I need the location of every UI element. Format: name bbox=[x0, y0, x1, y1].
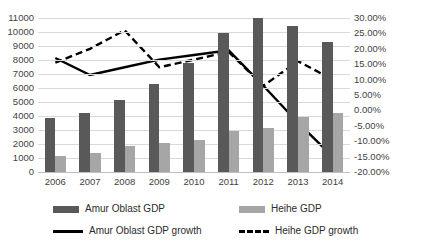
bar-heihe-gdp bbox=[298, 117, 309, 172]
bar-heihe-gdp bbox=[194, 140, 205, 172]
y-axis-left-tick: 2000 bbox=[13, 139, 34, 149]
legend-label: Heihe GDP bbox=[271, 203, 322, 215]
chart-legend: Amur Oblast GDP Heihe GDP Amur Oblast GD… bbox=[0, 196, 442, 248]
x-axis-tick: 2008 bbox=[107, 176, 142, 187]
legend-item-amur-oblast-gdp: Amur Oblast GDP bbox=[53, 203, 239, 215]
legend-item-amur-oblast-gdp-growth: Amur Oblast GDP growth bbox=[53, 225, 239, 237]
x-axis-tick: 2011 bbox=[211, 176, 246, 187]
x-axis-tick: 2009 bbox=[142, 176, 177, 187]
legend-line-solid-icon bbox=[53, 230, 83, 233]
x-axis-tick: 2007 bbox=[73, 176, 108, 187]
legend-label: Amur Oblast GDP bbox=[85, 203, 165, 215]
y-axis-right-tick: -20.00% bbox=[354, 167, 389, 177]
legend-label: Heihe GDP growth bbox=[275, 225, 358, 237]
y-axis-right-tick: 0.00% bbox=[354, 105, 381, 115]
gridline bbox=[38, 32, 350, 33]
y-axis-left-tick: 5000 bbox=[13, 97, 34, 107]
axis-baseline bbox=[38, 172, 350, 173]
y-axis-right-tick: 20.00% bbox=[354, 44, 386, 54]
bar-amur-oblast-gdp bbox=[45, 118, 56, 172]
y-axis-right: -20.00%-15.00%-10.00%-5.00%0.00%5.00%10.… bbox=[354, 18, 440, 172]
x-axis-tick: 2014 bbox=[315, 176, 350, 187]
bar-amur-oblast-gdp bbox=[253, 18, 264, 172]
bar-heihe-gdp bbox=[90, 153, 101, 172]
bar-amur-oblast-gdp bbox=[218, 33, 229, 172]
y-axis-right-tick: -5.00% bbox=[354, 121, 384, 131]
y-axis-right-tick: 10.00% bbox=[354, 75, 386, 85]
bar-heihe-gdp bbox=[159, 143, 170, 172]
y-axis-left-tick: 10000 bbox=[8, 27, 34, 37]
gridline bbox=[38, 74, 350, 75]
legend-item-heihe-gdp: Heihe GDP bbox=[239, 203, 389, 215]
bar-amur-oblast-gdp bbox=[114, 100, 125, 172]
bar-heihe-gdp bbox=[229, 131, 240, 172]
legend-swatch-dark-icon bbox=[53, 206, 79, 213]
x-axis-tick: 2013 bbox=[281, 176, 316, 187]
y-axis-left-tick: 6000 bbox=[13, 83, 34, 93]
gridline bbox=[38, 88, 350, 89]
y-axis-left-tick: 3000 bbox=[13, 125, 34, 135]
gridline bbox=[38, 60, 350, 61]
gridline bbox=[38, 18, 350, 19]
legend-row-lines: Amur Oblast GDP growth Heihe GDP growth bbox=[0, 220, 442, 242]
bar-heihe-gdp bbox=[125, 146, 136, 172]
legend-item-heihe-gdp-growth: Heihe GDP growth bbox=[239, 225, 389, 237]
y-axis-right-tick: 15.00% bbox=[354, 59, 386, 69]
legend-label: Amur Oblast GDP growth bbox=[89, 225, 202, 237]
bar-amur-oblast-gdp bbox=[287, 26, 298, 172]
legend-line-dashed-icon bbox=[239, 230, 269, 233]
y-axis-left-tick: 0 bbox=[29, 167, 34, 177]
bar-heihe-gdp bbox=[333, 113, 344, 172]
bar-heihe-gdp bbox=[55, 156, 66, 172]
x-axis-tick: 2010 bbox=[177, 176, 212, 187]
y-axis-left-tick: 4000 bbox=[13, 111, 34, 121]
y-axis-right-tick: 30.00% bbox=[354, 13, 386, 23]
y-axis-right-tick: 5.00% bbox=[354, 90, 381, 100]
bar-amur-oblast-gdp bbox=[79, 113, 90, 173]
y-axis-right-tick: 25.00% bbox=[354, 28, 386, 38]
y-axis-left-tick: 1000 bbox=[13, 153, 34, 163]
bar-heihe-gdp bbox=[263, 128, 274, 172]
bar-amur-oblast-gdp bbox=[322, 42, 333, 172]
bar-amur-oblast-gdp bbox=[183, 63, 194, 172]
legend-row-bars: Amur Oblast GDP Heihe GDP bbox=[0, 198, 442, 220]
y-axis-left: 0100020003000400050006000700080009000100… bbox=[0, 18, 34, 172]
gridline bbox=[38, 102, 350, 103]
plot-area bbox=[38, 18, 350, 172]
y-axis-left-tick: 7000 bbox=[13, 69, 34, 79]
y-axis-right-tick: -15.00% bbox=[354, 152, 389, 162]
y-axis-left-tick: 9000 bbox=[13, 41, 34, 51]
gdp-growth-combo-chart: 0100020003000400050006000700080009000100… bbox=[0, 0, 442, 248]
y-axis-left-tick: 8000 bbox=[13, 55, 34, 65]
x-axis-tick: 2012 bbox=[246, 176, 281, 187]
x-axis-tick: 2006 bbox=[38, 176, 73, 187]
legend-swatch-light-icon bbox=[239, 206, 265, 213]
y-axis-right-tick: -10.00% bbox=[354, 136, 389, 146]
y-axis-left-tick: 11000 bbox=[8, 13, 34, 23]
x-axis-labels: 200620072008200920102011201220132014 bbox=[38, 176, 350, 192]
gridline bbox=[38, 46, 350, 47]
bar-amur-oblast-gdp bbox=[149, 84, 160, 172]
